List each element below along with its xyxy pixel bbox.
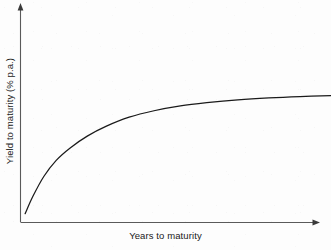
y-axis-label-container: Yield to maturity (% p.a.) (0, 0, 18, 222)
yield-curve-line (25, 96, 331, 214)
x-axis-arrow-icon (313, 219, 321, 225)
y-axis-arrow-icon (18, 3, 24, 11)
yield-curve-chart (0, 0, 331, 250)
yield-curve-figure: Yield to maturity (% p.a.) Years to matu… (0, 0, 331, 250)
x-axis-label: Years to maturity (0, 230, 331, 241)
y-axis-label: Yield to maturity (% p.a.) (4, 58, 15, 164)
